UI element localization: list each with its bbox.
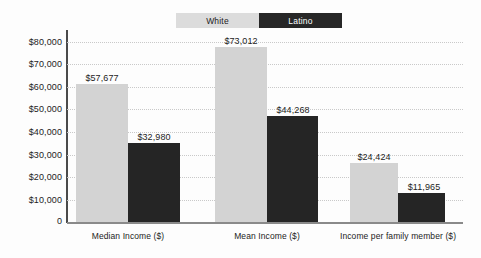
y-tick-80000: $80,000 [2,37,62,47]
x-axis-line [67,222,463,224]
bar-mean-income-latino[interactable] [267,116,318,222]
x-label-median-income: Median Income ($) [92,231,165,241]
bar-mean-income-white[interactable] [215,47,267,222]
y-tick-50000: $50,000 [2,104,62,114]
y-tick-30000: $30,000 [2,150,62,160]
legend-item-white[interactable]: White [176,13,259,28]
x-label-income-per-family-member: Income per family member ($) [340,231,456,241]
bar-value-median-income-latino: $32,980 [137,132,170,142]
y-tick-10000: $10,000 [2,195,62,205]
legend-label-white: White [206,16,229,26]
grouped-bar-chart: White Latino $80,000 $70,000 $60,000 $50… [0,0,481,258]
y-tick-70000: $70,000 [2,59,62,69]
bar-value-income-per-family-member-white: $24,424 [357,152,390,162]
bar-median-income-white[interactable] [76,84,128,222]
y-tick-60000: $60,000 [2,82,62,92]
y-tick-20000: $20,000 [2,172,62,182]
bar-value-median-income-white: $57,677 [85,73,118,83]
bar-value-mean-income-latino: $44,268 [276,105,309,115]
plot-area: $57,677 $32,980 $73,012 $44,268 $24,424 … [67,30,463,222]
y-tick-40000: $40,000 [2,127,62,137]
bar-median-income-latino[interactable] [128,143,180,222]
legend-label-latino: Latino [288,16,312,26]
y-axis-tick-labels: $80,000 $70,000 $60,000 $50,000 $40,000 … [0,0,62,258]
bar-group-income-per-family-member: $24,424 $11,965 [350,30,445,222]
bar-group-mean-income: $73,012 $44,268 [215,30,318,222]
bar-income-per-family-member-latino[interactable] [398,193,445,222]
chart-legend: White Latino [176,13,342,28]
bar-value-mean-income-white: $73,012 [224,36,257,46]
bar-group-median-income: $57,677 $32,980 [76,30,180,222]
legend-item-latino[interactable]: Latino [259,13,342,28]
x-label-mean-income: Mean Income ($) [234,231,300,241]
y-tick-0: 0 [2,216,62,226]
bar-income-per-family-member-white[interactable] [350,163,398,222]
bar-value-income-per-family-member-latino: $11,965 [408,182,441,192]
